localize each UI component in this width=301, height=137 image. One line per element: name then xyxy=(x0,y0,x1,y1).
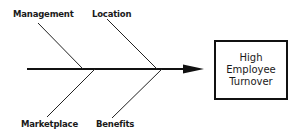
bone-location xyxy=(107,19,157,69)
arrowhead-icon xyxy=(183,65,204,74)
bone-management xyxy=(38,23,83,69)
cause-label-management: Management xyxy=(13,9,74,19)
effect-line-3: Turnover xyxy=(229,76,273,88)
cause-label-marketplace: Marketplace xyxy=(21,119,78,129)
cause-label-benefits: Benefits xyxy=(96,119,134,129)
bone-marketplace xyxy=(47,69,95,117)
cause-label-location: Location xyxy=(92,9,131,19)
effect-box: High Employee Turnover xyxy=(214,40,288,100)
effect-line-1: High xyxy=(240,52,263,64)
effect-line-2: Employee xyxy=(226,64,276,76)
bone-benefits xyxy=(112,69,162,118)
